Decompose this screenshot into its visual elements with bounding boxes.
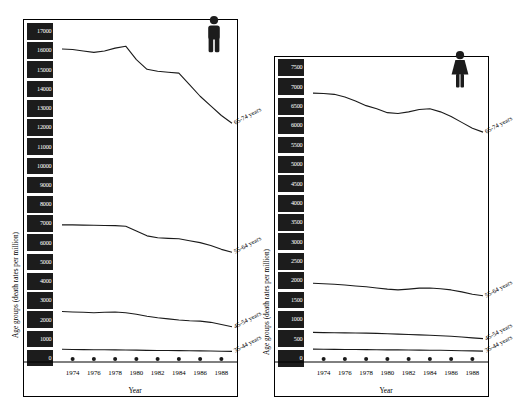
x-tick-female-1988: 1988 [460,369,484,376]
x-marker-male-1980 [134,357,138,361]
x-marker-male-1988 [219,357,223,361]
x-marker-female-1980 [385,357,389,361]
x-marker-male-1976 [92,357,96,361]
x-marker-female-1974 [322,357,326,361]
x-marker-female-1982 [407,357,411,361]
line-male-35-44-years [62,349,232,351]
x-marker-female-1986 [449,357,453,361]
line-female-65-74-years [313,93,483,132]
series-lines-male [0,0,250,413]
x-marker-male-1982 [156,357,160,361]
x-axis-title-female: Year [331,387,441,395]
line-male-55-64-years [62,225,232,252]
male-figure-icon [201,15,227,57]
x-axis-title-male: Year [80,387,190,395]
x-tick-male-1988: 1988 [209,369,233,376]
chart-panel-female: Age groups (death rates per million) 050… [251,0,501,413]
x-marker-female-1984 [428,357,432,361]
x-marker-male-1974 [71,357,75,361]
line-male-45-54-years [62,312,232,327]
x-marker-male-1978 [113,357,117,361]
line-male-65-74-years [62,46,232,123]
x-marker-female-1978 [364,357,368,361]
line-female-35-44-years [313,349,483,351]
x-marker-male-1986 [198,357,202,361]
chart-panel-male: Age groups (death rates per million) 010… [0,0,250,413]
female-figure-icon [447,50,473,92]
line-female-55-64-years [313,283,483,295]
x-marker-male-1984 [177,357,181,361]
x-marker-female-1988 [470,357,474,361]
line-female-45-54-years [313,332,483,338]
x-marker-female-1976 [343,357,347,361]
